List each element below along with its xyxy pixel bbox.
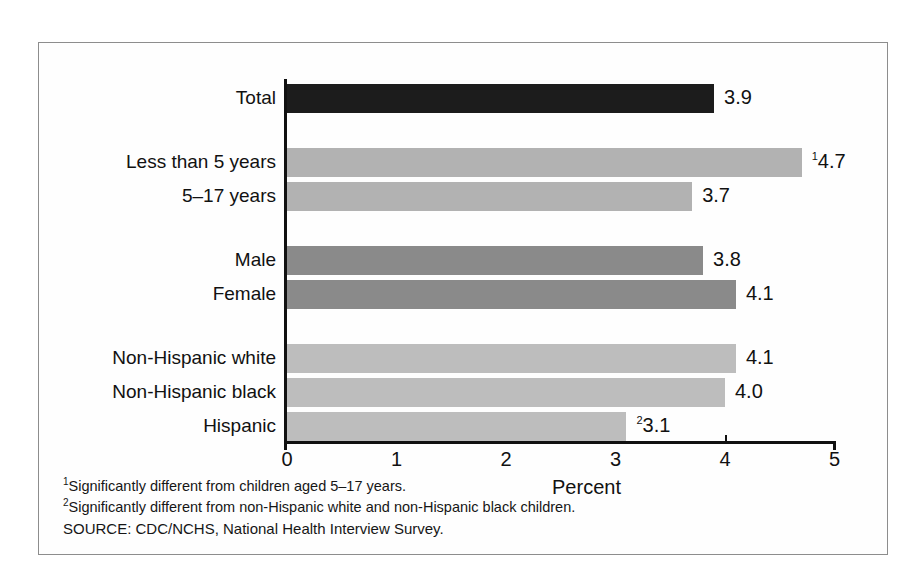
value-footnote-mark: 1 bbox=[812, 150, 818, 162]
x-axis-spine bbox=[284, 441, 835, 444]
bar-non-hispanic-white bbox=[287, 344, 736, 373]
value-label-less-than-5-years: 14.7 bbox=[812, 150, 846, 173]
bar-5-17-years bbox=[287, 182, 692, 211]
bar-less-than-5-years bbox=[287, 148, 802, 177]
value-label-hispanic: 23.1 bbox=[636, 414, 670, 437]
category-label-female: Female bbox=[213, 283, 276, 305]
chart-figure: 012345 TotalLess than 5 years5–17 yearsM… bbox=[38, 42, 888, 555]
footnotes-block: 1Significantly different from children a… bbox=[63, 475, 863, 539]
value-footnote-mark: 2 bbox=[636, 414, 642, 426]
value-label-total: 3.9 bbox=[724, 86, 752, 109]
bar-total bbox=[287, 84, 714, 113]
category-label-non-hispanic-black: Non-Hispanic black bbox=[112, 381, 276, 403]
category-label-5-17-years: 5–17 years bbox=[182, 185, 276, 207]
category-label-total: Total bbox=[236, 87, 276, 109]
value-label-female: 4.1 bbox=[746, 282, 774, 305]
footnote-1: 1Significantly different from children a… bbox=[63, 475, 863, 496]
bar-male bbox=[287, 246, 703, 275]
value-label-male: 3.8 bbox=[713, 248, 741, 271]
category-label-less-than-5-years: Less than 5 years bbox=[126, 151, 276, 173]
x-tick-label-5: 5 bbox=[815, 448, 855, 471]
value-label-non-hispanic-black: 4.0 bbox=[735, 380, 763, 403]
x-tick-4 bbox=[725, 435, 727, 444]
x-tick-label-3: 3 bbox=[596, 448, 636, 471]
source-line: SOURCE: CDC/NCHS, National Health Interv… bbox=[63, 518, 863, 539]
bar-hispanic bbox=[287, 412, 626, 441]
bar-non-hispanic-black bbox=[287, 378, 725, 407]
value-label-non-hispanic-white: 4.1 bbox=[746, 346, 774, 369]
category-label-hispanic: Hispanic bbox=[203, 415, 276, 437]
footnote-1-text: Significantly different from children ag… bbox=[69, 478, 406, 494]
category-label-male: Male bbox=[235, 249, 276, 271]
x-tick-label-2: 2 bbox=[486, 448, 526, 471]
footnote-2-text: Significantly different from non-Hispani… bbox=[69, 499, 576, 515]
category-label-non-hispanic-white: Non-Hispanic white bbox=[112, 347, 276, 369]
bar-female bbox=[287, 280, 736, 309]
x-tick-label-4: 4 bbox=[705, 448, 745, 471]
x-tick-label-0: 0 bbox=[267, 448, 307, 471]
footnote-2: 2Significantly different from non-Hispan… bbox=[63, 496, 863, 517]
x-tick-label-1: 1 bbox=[377, 448, 417, 471]
value-label-5-17-years: 3.7 bbox=[702, 184, 730, 207]
